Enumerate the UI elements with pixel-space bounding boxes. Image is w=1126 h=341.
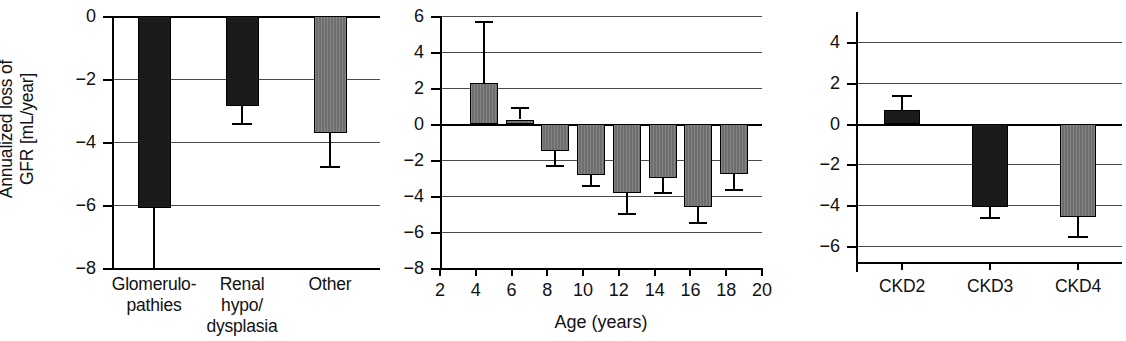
error-bar-stem bbox=[901, 95, 903, 110]
error-bar-cap bbox=[980, 217, 1000, 219]
y-tick-label-2: 2 bbox=[784, 74, 840, 92]
y-tick-−6 bbox=[847, 246, 856, 248]
y-tick-label-0: 0 bbox=[368, 115, 424, 133]
gridline-4 bbox=[440, 52, 762, 53]
y-tick-0 bbox=[103, 16, 112, 18]
y-tick-label-6: 6 bbox=[368, 7, 424, 25]
y-tick-label-4: 4 bbox=[784, 33, 840, 51]
y-tick-−8 bbox=[103, 268, 112, 270]
gridline-6 bbox=[440, 16, 762, 17]
error-bar-cap bbox=[618, 213, 636, 215]
x-tick-16 bbox=[689, 268, 691, 276]
error-bar-stem bbox=[697, 207, 699, 222]
y-tick-label-−4: −4 bbox=[368, 187, 424, 205]
error-bar-stem bbox=[989, 207, 991, 217]
error-bar-stem bbox=[733, 174, 735, 188]
bar-CKD3 bbox=[972, 124, 1008, 207]
x-category-label-line: hypo/ bbox=[180, 295, 304, 316]
y-axis-title-line2: GFR [mL/year] bbox=[17, 34, 38, 224]
x-axis-title-age: Age (years) bbox=[440, 312, 762, 333]
x-tick-18 bbox=[725, 268, 727, 276]
error-bar-stem bbox=[590, 175, 592, 185]
bar-Renal hypo/dysplasia bbox=[226, 16, 259, 106]
y-tick-label-−6: −6 bbox=[40, 196, 96, 214]
x-tick-6 bbox=[511, 268, 513, 276]
y-tick-0 bbox=[431, 124, 440, 126]
error-bar-cap bbox=[546, 165, 564, 167]
x-tick-14 bbox=[654, 268, 656, 276]
x-category-label-line: CKD4 bbox=[1016, 276, 1126, 297]
y-tick-label-0: 0 bbox=[40, 7, 96, 25]
bar-age-16 bbox=[684, 124, 712, 207]
error-bar-cap bbox=[689, 222, 707, 224]
y-tick-label-−8: −8 bbox=[368, 259, 424, 277]
y-tick-4 bbox=[431, 52, 440, 54]
y-tick-−6 bbox=[103, 205, 112, 207]
y-tick-label-0: 0 bbox=[784, 115, 840, 133]
panel-ckd-stage: 420−2−4−6CKD2CKD3CKD4 bbox=[810, 0, 1112, 341]
y-tick-−4 bbox=[431, 196, 440, 198]
x-tick-CKD4 bbox=[1077, 262, 1079, 270]
x-category-label-line: dysplasia bbox=[180, 316, 304, 337]
panel-age: 6420−2−4−6−82468101214161820 Age (years) bbox=[380, 0, 810, 341]
y-tick-label-2: 2 bbox=[368, 79, 424, 97]
plot-area-age: 6420−2−4−6−82468101214161820 bbox=[440, 16, 762, 268]
x-tick-4 bbox=[475, 268, 477, 276]
gridline-−6 bbox=[856, 246, 1122, 247]
x-tick-2 bbox=[439, 268, 441, 276]
bar-age-12 bbox=[613, 124, 641, 193]
error-bar-stem bbox=[662, 178, 664, 192]
y-tick-−6 bbox=[431, 232, 440, 234]
x-tick-CKD2 bbox=[901, 262, 903, 270]
x-category-label-Other: Other bbox=[268, 274, 392, 295]
bar-Other bbox=[314, 16, 347, 133]
bar-age-18 bbox=[720, 124, 748, 174]
plot-area-ckd: 420−2−4−6CKD2CKD3CKD4 bbox=[856, 22, 1122, 262]
bar-Glomerulo-pathies bbox=[138, 16, 171, 208]
x-tick-20 bbox=[761, 268, 763, 276]
x-tick-label-20: 20 bbox=[740, 280, 784, 300]
x-category-label-CKD4: CKD4 bbox=[1016, 276, 1126, 297]
y-tick-label-−6: −6 bbox=[784, 237, 840, 255]
x-category-label-line: Other bbox=[268, 274, 392, 295]
y-tick-6 bbox=[431, 16, 440, 18]
gridline-−4 bbox=[440, 196, 762, 197]
error-bar-stem bbox=[241, 106, 243, 123]
x-axis-line bbox=[440, 268, 762, 270]
error-bar-cap bbox=[1068, 236, 1088, 238]
error-bar-cap bbox=[725, 189, 743, 191]
y-axis-title-line1: Annualized loss of bbox=[0, 60, 16, 198]
y-tick-label-−8: −8 bbox=[40, 259, 96, 277]
error-bar-stem bbox=[153, 208, 155, 268]
y-tick-4 bbox=[847, 42, 856, 44]
bar-age-14 bbox=[649, 124, 677, 178]
y-axis-spine bbox=[440, 16, 442, 268]
error-bar-cap bbox=[475, 21, 493, 23]
x-tick-8 bbox=[546, 268, 548, 276]
y-tick-label-4: 4 bbox=[368, 43, 424, 61]
error-bar-cap bbox=[892, 95, 912, 97]
y-tick-label-−2: −2 bbox=[40, 70, 96, 88]
y-tick-0 bbox=[847, 124, 856, 126]
y-tick-−2 bbox=[103, 79, 112, 81]
gridline-2 bbox=[856, 83, 1122, 84]
x-tick-10 bbox=[582, 268, 584, 276]
panel-diagnosis: Annualized loss of GFR [mL/year] 0−2−4−6… bbox=[0, 0, 380, 341]
plot-area-diagnosis: 0−2−4−6−8Glomerulo-pathiesRenalhypo/dysp… bbox=[112, 16, 380, 268]
y-tick-2 bbox=[431, 88, 440, 90]
bar-CKD4 bbox=[1060, 124, 1096, 218]
x-tick-12 bbox=[618, 268, 620, 276]
error-bar-stem bbox=[483, 21, 485, 83]
y-tick-label-−4: −4 bbox=[784, 196, 840, 214]
bar-age-8 bbox=[541, 124, 569, 151]
y-tick-−2 bbox=[847, 164, 856, 166]
y-axis-spine bbox=[112, 16, 114, 268]
gridline-−6 bbox=[440, 232, 762, 233]
y-tick-−4 bbox=[847, 205, 856, 207]
error-bar-cap bbox=[582, 185, 600, 187]
bar-CKD2 bbox=[884, 110, 920, 123]
y-tick-2 bbox=[847, 83, 856, 85]
error-bar-cap bbox=[511, 107, 529, 109]
error-bar-stem bbox=[1077, 217, 1079, 235]
